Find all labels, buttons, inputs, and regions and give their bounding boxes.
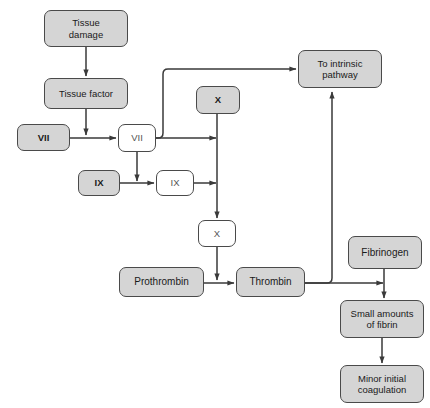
- node-factor-x-active: X: [198, 220, 236, 247]
- node-thrombin: Thrombin: [236, 267, 305, 297]
- node-factor-vii-active: VII: [118, 124, 156, 152]
- node-tissue-factor: Tissue factor: [44, 78, 128, 109]
- edge-thrombin-to-intrinsic: [305, 92, 332, 283]
- node-factor-ix-active: IX: [156, 170, 194, 196]
- node-fibrinogen: Fibrinogen: [348, 236, 422, 269]
- node-minor-initial-coagulation: Minor initial coagulation: [340, 365, 424, 403]
- node-label-factor-ix: IX: [92, 177, 107, 188]
- node-label-minor-initial-coagulation: Minor initial coagulation: [355, 373, 410, 395]
- node-label-prothrombin: Prothrombin: [131, 276, 191, 288]
- node-label-factor-ix-active: IX: [168, 177, 183, 188]
- coagulation-cascade-diagram: Tissue damage Tissue factor VII VII IX I…: [0, 0, 430, 408]
- node-label-factor-x: X: [212, 94, 224, 105]
- node-label-tissue-factor: Tissue factor: [56, 88, 116, 99]
- node-tissue-damage: Tissue damage: [44, 10, 128, 47]
- node-factor-ix: IX: [78, 170, 120, 196]
- node-factor-vii: VII: [17, 124, 70, 151]
- node-label-factor-vii: VII: [35, 132, 53, 143]
- node-label-tissue-damage: Tissue damage: [66, 17, 106, 39]
- node-prothrombin: Prothrombin: [119, 267, 204, 297]
- node-to-intrinsic-pathway: To intrinsic pathway: [298, 50, 382, 88]
- node-label-thrombin: Thrombin: [246, 276, 294, 288]
- node-label-factor-x-active: X: [211, 228, 223, 239]
- node-label-fibrinogen: Fibrinogen: [358, 247, 411, 259]
- node-label-to-intrinsic-pathway: To intrinsic pathway: [315, 58, 366, 80]
- node-label-small-amounts-of-fibrin: Small amounts of fibrin: [348, 308, 417, 330]
- node-label-factor-vii-active: VII: [128, 132, 146, 143]
- node-small-amounts-of-fibrin: Small amounts of fibrin: [340, 300, 424, 338]
- node-factor-x: X: [196, 86, 240, 114]
